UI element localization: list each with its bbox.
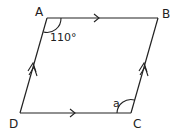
vertex-label-a: A (35, 5, 44, 19)
angle-label-a: 110° (50, 31, 77, 44)
parallelogram-diagram: A B C D 110° a (0, 0, 179, 136)
parallel-double-arrow-da-icon (28, 63, 37, 76)
angle-label-c: a (113, 97, 120, 110)
parallel-double-arrow-cb-icon (139, 63, 148, 76)
vertex-label-d: D (9, 117, 18, 131)
vertex-label-b: B (162, 7, 170, 21)
vertex-label-c: C (133, 117, 141, 131)
